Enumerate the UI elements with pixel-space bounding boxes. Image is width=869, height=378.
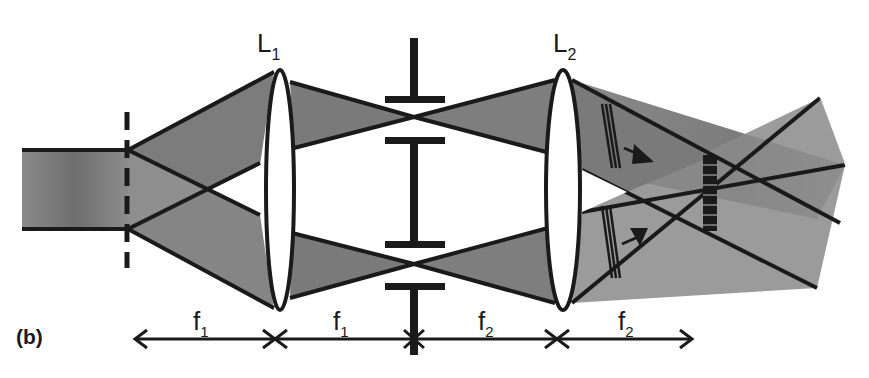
interference-fringes [703,155,717,231]
focusing-cones-l1 [290,82,414,298]
diverging-cones-l2 [414,80,555,303]
lens-l1-label: L1 [257,28,280,63]
distance-label-f1-a: f1 [193,306,209,340]
optical-4f-diagram: L1 L2 f1 f1 f2 f2 (b) [0,0,869,378]
distance-label-f2-a: f2 [478,306,494,340]
lens-l2 [546,70,580,310]
lens-l1 [266,70,294,310]
panel-label: (b) [16,325,43,348]
diffracted-beams-l1 [128,70,274,310]
distance-label-f2-b: f2 [618,306,634,340]
fourier-aperture-mask [385,38,445,355]
distance-label-f1-b: f1 [333,306,349,340]
lens-l2-label: L2 [553,28,576,63]
input-beam [22,150,128,229]
